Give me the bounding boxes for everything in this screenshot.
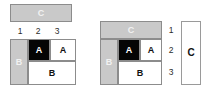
left-b-row-cell: B xyxy=(28,61,76,85)
left-column-tick-2: 2 xyxy=(33,27,43,36)
right-b-row-cell: B xyxy=(118,61,162,85)
right-c-header-cell: C xyxy=(100,21,162,39)
right-row-tick-3: 3 xyxy=(166,68,176,77)
left-a-white-cell: A xyxy=(50,39,76,61)
left-column-tick-1: 1 xyxy=(15,27,25,36)
figure-canvas: C 1 2 3 B A A B C B A A B 1 2 3 C xyxy=(0,0,205,92)
right-a-black-cell: A xyxy=(118,39,140,61)
right-b-column-cell: B xyxy=(100,39,118,85)
right-a-white-cell: A xyxy=(140,39,162,61)
right-row-tick-1: 1 xyxy=(166,26,176,35)
left-c-box: C xyxy=(10,4,72,22)
left-column-tick-3: 3 xyxy=(52,27,62,36)
right-c-box: C xyxy=(181,21,201,85)
left-a-black-cell: A xyxy=(28,39,50,61)
right-row-tick-2: 2 xyxy=(166,46,176,55)
left-b-column-cell: B xyxy=(10,39,28,85)
